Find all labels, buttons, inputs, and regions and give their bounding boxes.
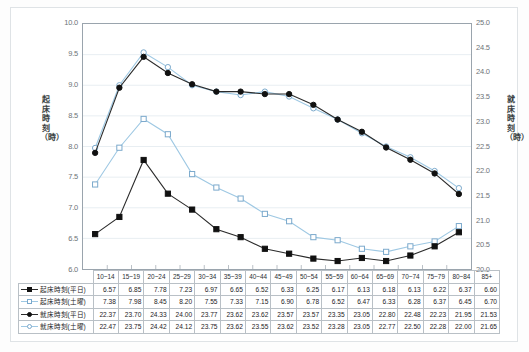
table-cell: 22.28 (423, 321, 448, 334)
table-cell: 23.70 (118, 308, 143, 321)
marker (311, 256, 316, 261)
marker (117, 85, 122, 90)
table-cell: 23.62 (271, 321, 296, 334)
table-cell: 23.28 (322, 321, 347, 334)
table-column-header: 50~54 (296, 271, 321, 284)
marker (384, 249, 389, 254)
legend-swatch-icon (21, 311, 38, 318)
table-cell: 23.62 (220, 308, 245, 321)
table-cell: 7.15 (245, 296, 270, 309)
marker (93, 232, 98, 237)
table-cell: 24.42 (144, 321, 169, 334)
table-column-header: 55~59 (322, 271, 347, 284)
table-row: 就床時刻(土曜)22.4723.7524.4224.1223.7523.6223… (19, 321, 500, 334)
table-cell: 7.55 (195, 296, 220, 309)
legend-entry: 就床時刻(土曜) (19, 321, 94, 334)
table-cell: 23.05 (347, 321, 372, 334)
table-cell: 24.00 (169, 308, 194, 321)
y-tick-right: 20.5 (476, 240, 502, 249)
table-cell: 7.23 (169, 283, 194, 296)
y-tick-right: 21.5 (476, 191, 502, 200)
table-column-header: 20~24 (144, 271, 169, 284)
table-cell: 7.98 (118, 296, 143, 309)
table-cell: 6.33 (372, 296, 397, 309)
marker (214, 185, 219, 190)
table-cell: 22.37 (93, 308, 118, 321)
marker (408, 253, 413, 258)
table-cell: 6.18 (372, 283, 397, 296)
table-cell: 22.48 (398, 308, 423, 321)
table-cell: 6.37 (423, 296, 448, 309)
marker (165, 132, 170, 137)
table-cell: 6.33 (271, 283, 296, 296)
marker (165, 64, 170, 69)
y-tick-right: 23.5 (476, 92, 502, 101)
marker (456, 185, 461, 190)
marker (214, 89, 219, 94)
table-cell: 6.13 (398, 283, 423, 296)
table-cell: 8.20 (169, 296, 194, 309)
table-cell: 6.65 (220, 283, 245, 296)
marker (432, 239, 437, 244)
y-axis-right-title: 就床時刻（時） (505, 95, 516, 143)
legend-swatch-icon (21, 323, 38, 330)
table-cell: 6.22 (423, 283, 448, 296)
y-tick-right: 21.0 (476, 216, 502, 225)
marker (286, 91, 291, 96)
table-row: 起床時刻(土曜)7.387.988.458.207.557.337.156.90… (19, 296, 500, 309)
table-column-header: 65~69 (372, 271, 397, 284)
table-cell: 24.33 (144, 308, 169, 321)
marker (287, 251, 292, 256)
table-corner-cell (19, 271, 94, 284)
y-tick-left: 9.0 (52, 80, 78, 89)
legend-swatch-icon (21, 286, 38, 293)
marker (335, 258, 340, 263)
y-tick-right: 22.5 (476, 142, 502, 151)
marker (456, 230, 461, 235)
table-cell: 23.57 (296, 308, 321, 321)
table-cell: 6.78 (296, 296, 321, 309)
marker (117, 145, 122, 150)
marker (311, 235, 316, 240)
marker (165, 191, 170, 196)
table-cell: 21.53 (474, 308, 499, 321)
marker (141, 116, 146, 121)
table-cell: 21.95 (449, 308, 474, 321)
table-cell: 24.12 (169, 321, 194, 334)
table-cell: 7.33 (220, 296, 245, 309)
marker (238, 89, 243, 94)
table-cell: 23.75 (118, 321, 143, 334)
table-cell: 23.35 (322, 308, 347, 321)
table-column-header: 45~49 (271, 271, 296, 284)
marker (262, 211, 267, 216)
table-cell: 22.80 (372, 308, 397, 321)
table-cell: 23.57 (271, 308, 296, 321)
series-2 (92, 54, 461, 197)
marker (359, 129, 364, 134)
legend-swatch-icon (21, 298, 38, 305)
y-tick-left: 6.5 (52, 234, 78, 243)
marker (335, 238, 340, 243)
marker (238, 196, 243, 201)
data-table: 10~1415~1920~2425~2930~3435~3940~4445~49… (18, 270, 500, 334)
table-cell: 22.47 (93, 321, 118, 334)
marker (408, 244, 413, 249)
table-column-header: 25~29 (169, 271, 194, 284)
marker (165, 70, 170, 75)
legend-label: 就床時刻(平日) (40, 309, 86, 321)
table-cell: 23.77 (195, 308, 220, 321)
table-cell: 21.65 (474, 321, 499, 334)
legend-label: 起床時刻(土曜) (40, 296, 86, 308)
marker (92, 150, 97, 155)
marker (141, 54, 146, 59)
table-cell: 22.50 (398, 321, 423, 334)
table-cell: 6.85 (118, 283, 143, 296)
y-tick-left: 7.5 (52, 172, 78, 181)
table-cell: 6.57 (93, 283, 118, 296)
marker (214, 227, 219, 232)
y-tick-right: 24.5 (476, 43, 502, 52)
marker (117, 214, 122, 219)
marker (432, 244, 437, 249)
marker (359, 255, 364, 260)
table-cell: 23.52 (296, 321, 321, 334)
